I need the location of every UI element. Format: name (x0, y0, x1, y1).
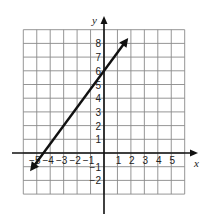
graph-line (33, 42, 125, 167)
x-axis-arrow-icon (190, 150, 198, 157)
coordinate-plane: xy −5−4−3−2−112345−2−112345678 (0, 0, 210, 216)
y-axis-arrow-icon (101, 16, 108, 24)
y-tick-label: 4 (95, 93, 101, 104)
y-tick-label: 1 (95, 134, 101, 145)
tick-labels: −5−4−3−2−112345−2−112345678 (29, 38, 175, 186)
y-tick-label: 2 (95, 121, 101, 132)
y-axis-label: y (91, 14, 97, 26)
x-tick-label: −4 (42, 155, 54, 166)
x-tick-label: 5 (169, 155, 175, 166)
y-tick-label: 7 (95, 52, 101, 63)
x-tick-label: 1 (116, 155, 122, 166)
y-tick-label: −2 (90, 175, 102, 186)
x-tick-label: 4 (156, 155, 162, 166)
y-tick-label: 8 (95, 38, 101, 49)
y-tick-label: −1 (90, 162, 102, 173)
x-tick-label: 3 (143, 155, 149, 166)
x-tick-label: −2 (69, 155, 81, 166)
x-axis-label: x (193, 157, 199, 169)
plotted-line (30, 38, 128, 171)
x-tick-label: 2 (129, 155, 135, 166)
x-tick-label: −3 (56, 155, 68, 166)
y-tick-label: 3 (95, 107, 101, 118)
